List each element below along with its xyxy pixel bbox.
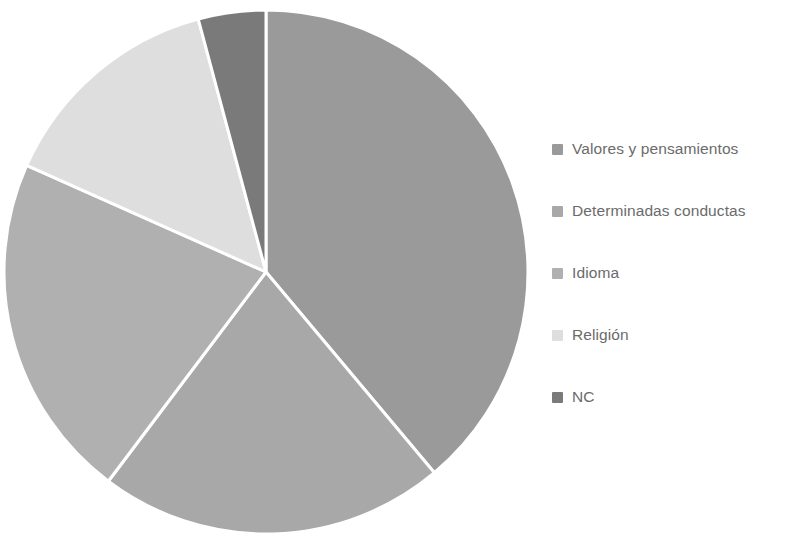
pie-chart-figure: Valores y pensamientos Determinadas cond… — [0, 0, 806, 548]
legend-swatch-icon — [552, 268, 563, 279]
legend-swatch-icon — [552, 206, 563, 217]
legend-item-idioma[interactable]: Idioma — [552, 264, 806, 282]
legend-item-label: NC — [572, 388, 595, 406]
legend-swatch-icon — [552, 330, 563, 341]
legend-item-determinadas-conductas[interactable]: Determinadas conductas — [552, 202, 806, 220]
pie-slice-group — [4, 10, 528, 534]
legend-item-nc[interactable]: NC — [552, 388, 806, 406]
chart-legend: Valores y pensamientos Determinadas cond… — [552, 140, 806, 406]
legend-item-valores-y-pensamientos[interactable]: Valores y pensamientos — [552, 140, 806, 158]
pie-chart-plot-area — [0, 0, 540, 548]
legend-swatch-icon — [552, 144, 563, 155]
legend-item-label: Idioma — [572, 264, 619, 282]
legend-item-religion[interactable]: Religión — [552, 326, 806, 344]
pie-chart-svg — [0, 0, 540, 548]
legend-swatch-icon — [552, 392, 563, 403]
legend-item-label: Valores y pensamientos — [572, 140, 738, 158]
legend-item-label: Religión — [572, 326, 629, 344]
legend-item-label: Determinadas conductas — [572, 202, 746, 220]
